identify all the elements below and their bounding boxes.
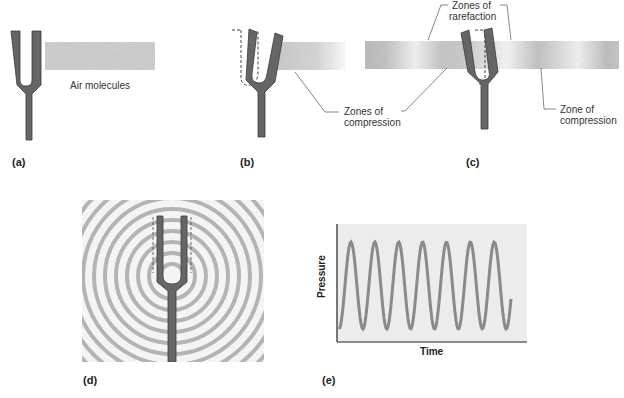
zones-compression-b-line1: Zones of [344, 106, 383, 117]
tuning-fork-a [11, 31, 41, 140]
panel-b [232, 29, 345, 137]
panel-label-c: (c) [466, 156, 479, 168]
zones-rarefaction-line1: Zones of [452, 0, 491, 11]
diagram-canvas [0, 0, 624, 398]
panel-label-e: (e) [322, 374, 335, 386]
callout-line [295, 72, 339, 112]
zone-compression-c-line2: compression [560, 115, 617, 126]
pressure-time-chart [337, 224, 527, 342]
tuning-fork-b [246, 29, 283, 137]
zone-compression-c-line1: Zone of [560, 104, 594, 115]
y-axis-label: Pressure [316, 255, 327, 298]
panel-label-a: (a) [12, 156, 25, 168]
panel-label-b: (b) [240, 156, 254, 168]
panel-d [50, 154, 294, 398]
air-molecules-label: Air molecules [70, 80, 130, 91]
panel-label-d: (d) [83, 374, 97, 386]
x-axis-label: Time [420, 346, 443, 357]
zones-compression-b-line2: compression [344, 117, 401, 128]
zones-rarefaction-line2: rarefaction [449, 11, 496, 22]
